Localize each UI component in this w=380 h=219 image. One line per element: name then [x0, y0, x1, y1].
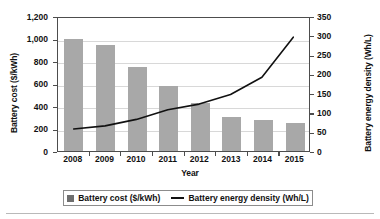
y-axis-right-tick-label: 350: [317, 12, 347, 22]
y-axis-right-tick-mark: [310, 113, 314, 114]
x-axis-tick-mark: [120, 152, 121, 156]
square-marker-icon: [67, 195, 74, 202]
y-axis-left-tick-label: 1,200: [2, 12, 48, 22]
y-axis-left-tick-label: 200: [2, 124, 48, 134]
y-axis-left-tick-label: 1,000: [2, 34, 48, 44]
line-series: [58, 18, 309, 152]
y-axis-right-tick-label: 50: [317, 127, 347, 137]
y-axis-left-tick-label: 800: [2, 57, 48, 67]
chart-legend: Battery cost ($/kWh) Battery energy dens…: [63, 190, 313, 206]
chart-figure: Battery cost ($/kWh) Battery energy dens…: [0, 0, 380, 219]
y-axis-left-tick-mark: [53, 62, 57, 63]
y-axis-right-tick-mark: [310, 56, 314, 57]
y-axis-right-tick-mark: [310, 17, 314, 18]
x-axis-tick-mark: [215, 152, 216, 156]
y-axis-left-tick-label: 400: [2, 102, 48, 112]
y-axis-right-tick-mark: [310, 133, 314, 134]
y-axis-right-tick-label: 300: [317, 31, 347, 41]
plot-area: [57, 17, 310, 152]
y-axis-right-tick-label: 0: [317, 147, 347, 157]
x-axis-tick-label: 2015: [274, 154, 314, 164]
y-axis-left-tick-mark: [53, 17, 57, 18]
x-axis-tick-mark: [278, 152, 279, 156]
y-axis-right-tick-label: 250: [317, 50, 347, 60]
x-axis-tick-mark: [247, 152, 248, 156]
legend-label-battery-cost: Battery cost ($/kWh): [78, 193, 160, 203]
y-axis-left-tick-mark: [53, 85, 57, 86]
y-axis-right-tick-label: 200: [317, 69, 347, 79]
y-axis-right-tick-mark: [310, 75, 314, 76]
y-axis-right-tick-mark: [310, 36, 314, 37]
x-axis-tick-mark: [152, 152, 153, 156]
y-axis-left-tick-mark: [53, 107, 57, 108]
x-axis-tick-mark: [184, 152, 185, 156]
x-axis-title: Year: [0, 168, 380, 178]
y-axis-left-tick-mark: [53, 152, 57, 153]
y-axis-left-tick-label: 0: [2, 147, 48, 157]
y-axis-right-tick-label: 150: [317, 89, 347, 99]
y-axis-right-tick-mark: [310, 94, 314, 95]
bottom-divider: [6, 213, 374, 214]
legend-label-energy-density: Battery energy density (Wh/L): [188, 193, 308, 203]
y-axis-left-tick-mark: [53, 40, 57, 41]
y-axis-left-tick-mark: [53, 130, 57, 131]
y-axis-left-tick-label: 600: [2, 79, 48, 89]
y-axis-left-title: Battery cost ($/kWh): [9, 33, 19, 153]
y-axis-right-tick-label: 100: [317, 108, 347, 118]
y-axis-right-tick-mark: [310, 152, 314, 153]
x-axis-tick-mark: [89, 152, 90, 156]
y-axis-right-title: Battery energy density (Wh/L): [363, 33, 373, 153]
line-marker-icon: [171, 197, 184, 199]
legend-item-energy-density: Battery energy density (Wh/L): [171, 193, 308, 203]
legend-item-battery-cost: Battery cost ($/kWh): [67, 193, 160, 203]
